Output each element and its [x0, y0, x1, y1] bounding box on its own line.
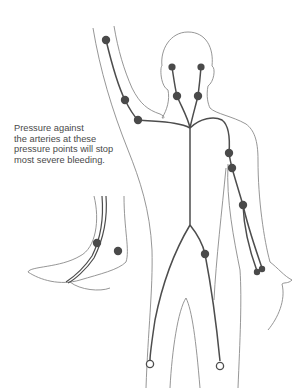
- pressure-point-elbow-right: [228, 164, 236, 172]
- endpoint-left-leg: [146, 360, 153, 367]
- pressure-point-ankle-outer: [114, 247, 122, 255]
- pressure-point-neck-left: [173, 92, 181, 100]
- pressure-point-femoral: [201, 250, 209, 258]
- leg-endpoints: [146, 360, 223, 369]
- pressure-point-ankle-inner: [93, 239, 101, 247]
- pressure-point-temple-left: [168, 63, 175, 70]
- pressure-points-diagram: Pressure against the arteries at these p…: [0, 0, 306, 388]
- pressure-point-temple-right: [197, 63, 204, 70]
- caption-line: the arteries at these: [14, 134, 164, 145]
- endpoint-right-leg: [216, 362, 223, 369]
- pressure-point-elbow: [121, 96, 129, 104]
- pressure-point-wrist-2: [259, 266, 265, 272]
- pressure-point-neck-right: [194, 92, 202, 100]
- caption-text: Pressure against the arteries at these p…: [14, 123, 164, 165]
- body-outline: [28, 26, 292, 388]
- pressure-point-upper-arm: [102, 36, 110, 44]
- caption-line: most severe bleeding.: [14, 155, 164, 166]
- caption-line: pressure points will stop: [14, 144, 164, 155]
- pressure-point-upper-arm-right: [225, 149, 233, 157]
- pressure-point-forearm-right: [239, 201, 247, 209]
- body-figure-illustration: [0, 0, 306, 388]
- caption-line: Pressure against: [14, 123, 164, 134]
